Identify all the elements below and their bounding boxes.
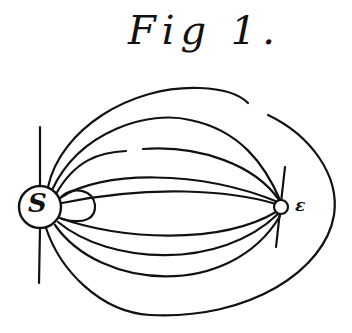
axis-line-lower [39,228,40,283]
earth-circle [274,200,288,214]
field-line-diagram [0,0,352,333]
outer-loop [48,88,248,187]
sun-label: S [28,190,47,216]
field-line-upper-1 [52,118,280,200]
earth-label: ε [295,197,305,214]
small-loop [62,190,95,221]
field-line-upper-2a [56,151,126,194]
